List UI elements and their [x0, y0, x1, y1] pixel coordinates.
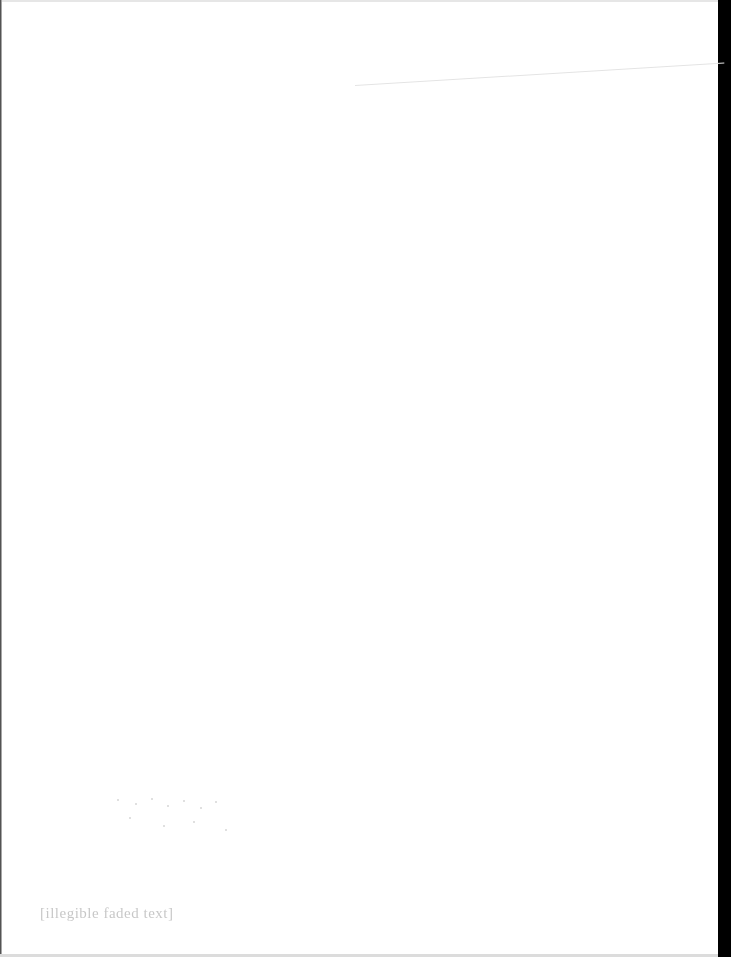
faint-stamp-smudge: [105, 795, 255, 840]
scanned-document-page: [illegible faded text]: [0, 0, 731, 957]
faded-footer-text: [illegible faded text]: [40, 905, 280, 923]
right-scan-border: [718, 0, 731, 957]
top-scan-edge: [0, 0, 718, 2]
faint-diagonal-line: [355, 62, 724, 86]
left-scan-edge: [0, 0, 2, 957]
